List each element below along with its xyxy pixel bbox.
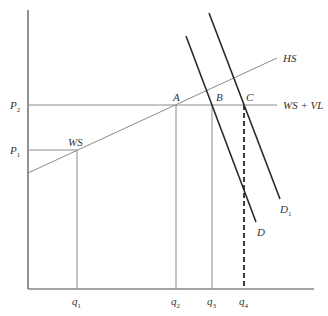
hs-supply-line bbox=[28, 58, 277, 173]
d-label: D bbox=[256, 226, 265, 238]
ws-label: WS bbox=[68, 136, 83, 148]
hs-label: HS bbox=[282, 52, 297, 64]
point-a-label: A bbox=[172, 91, 180, 103]
q1-label: q1 bbox=[72, 295, 82, 310]
p2-label: P2 bbox=[9, 99, 21, 114]
q4-label: q4 bbox=[239, 295, 249, 310]
demand-curve-d bbox=[186, 36, 256, 222]
p1-label: P1 bbox=[9, 144, 21, 159]
supply-demand-diagram: P2 P1 q1 q2 q3 q4 HS WS + VL WS D D1 A B… bbox=[0, 0, 328, 316]
q2-label: q2 bbox=[171, 295, 181, 310]
point-b-label: B bbox=[216, 91, 223, 103]
d1-label: D1 bbox=[279, 203, 292, 218]
point-c-label: C bbox=[246, 91, 254, 103]
ws-vl-label: WS + VL bbox=[283, 99, 323, 111]
q3-label: q3 bbox=[207, 295, 217, 310]
